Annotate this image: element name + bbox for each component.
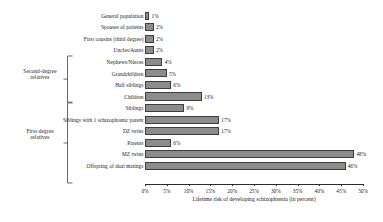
category-label: Children	[124, 93, 143, 99]
x-axis-tick-label: 0%	[141, 188, 148, 194]
x-axis-tick	[298, 184, 299, 186]
bar-value-label: 5%	[169, 71, 176, 77]
bar-row: Siblings9%	[0, 102, 383, 114]
x-axis-tick-label: 50%	[358, 188, 368, 194]
bar-track: 46%	[145, 160, 363, 172]
bar-row: Grandchildren5%	[0, 68, 383, 80]
x-axis-tick	[276, 184, 277, 186]
bar-track: 1%	[145, 10, 363, 22]
bar	[145, 12, 149, 20]
bar-row: Children13%	[0, 91, 383, 103]
category-label: First cousins (third degree)	[84, 36, 144, 42]
bar-track: 5%	[145, 68, 363, 80]
bar-track: 17%	[145, 114, 363, 126]
bar-value-label: 2%	[156, 36, 163, 42]
category-label: MZ twins	[122, 151, 144, 157]
category-label: Uncles/Aunts	[114, 47, 144, 53]
category-label: Spouses of patients	[101, 24, 144, 30]
bar	[145, 116, 219, 124]
bar-row: Spouses of patients2%	[0, 22, 383, 34]
category-label: Parents	[127, 140, 143, 146]
bar-row: MZ twins48%	[0, 149, 383, 161]
bar-row: General population1%	[0, 10, 383, 22]
bar-row: Siblings with 1 schizophrenic parent17%	[0, 114, 383, 126]
bar-track: 2%	[145, 22, 363, 34]
category-label: DZ twins	[123, 128, 144, 134]
bar-value-label: 4%	[165, 59, 172, 65]
x-axis-tick-label: 35%	[293, 188, 303, 194]
x-axis-tick-label: 45%	[336, 188, 346, 194]
category-label: Siblings with 1 schizophrenic parent	[63, 117, 144, 123]
x-axis-title: Lifetime risk of developing schizophreni…	[145, 196, 363, 203]
bar-value-label: 17%	[221, 128, 231, 134]
bar-value-label: 9%	[186, 105, 193, 111]
category-label: General population	[101, 13, 143, 19]
category-label: Half siblings	[115, 82, 143, 88]
bar	[145, 46, 154, 54]
bar-track: 2%	[145, 33, 363, 45]
bar	[145, 139, 171, 147]
bar-row: Nephews/Nieces4%	[0, 56, 383, 68]
bar-value-label: 46%	[348, 163, 358, 169]
schizophrenia-risk-bar-chart: Second-degree relatives First-degree rel…	[0, 0, 383, 222]
bar-track: 9%	[145, 102, 363, 114]
x-axis-tick-label: 40%	[315, 188, 325, 194]
bar	[145, 81, 171, 89]
bar-track: 48%	[145, 149, 363, 161]
x-axis-tick-label: 10%	[184, 188, 194, 194]
category-label: Nephews/Nieces	[107, 59, 144, 65]
bar-value-label: 1%	[152, 13, 159, 19]
x-axis-tick	[319, 184, 320, 186]
bar	[145, 104, 184, 112]
bar-row: First cousins (third degree)2%	[0, 33, 383, 45]
bar-value-label: 2%	[156, 47, 163, 53]
bar-row: Uncles/Aunts2%	[0, 45, 383, 57]
bar-track: 17%	[145, 125, 363, 137]
bar-row: Half siblings6%	[0, 79, 383, 91]
x-axis-tick-label: 30%	[271, 188, 281, 194]
x-axis-tick	[145, 184, 146, 186]
x-axis-tick-label: 5%	[163, 188, 170, 194]
bar-row: Parents6%	[0, 137, 383, 149]
bar	[145, 127, 219, 135]
bar	[145, 35, 154, 43]
category-label: Siblings	[125, 105, 143, 111]
bar	[145, 58, 162, 66]
x-axis-tick-label: 20%	[227, 188, 237, 194]
bar-value-label: 17%	[221, 117, 231, 123]
x-axis-tick	[167, 184, 168, 186]
x-axis-tick-label: 15%	[206, 188, 216, 194]
x-axis-tick	[232, 184, 233, 186]
bar-track: 6%	[145, 137, 363, 149]
bar	[145, 150, 354, 158]
x-axis-tick	[363, 184, 364, 186]
bar-row: DZ twins17%	[0, 125, 383, 137]
bar-rows: General population1%Spouses of patients2…	[0, 10, 383, 172]
x-axis-tick	[254, 184, 255, 186]
category-label: Offspring of dual matings	[87, 163, 144, 169]
bar	[145, 69, 167, 77]
x-axis-tick	[210, 184, 211, 186]
x-axis-tick-label: 25%	[249, 188, 259, 194]
bar-value-label: 13%	[204, 94, 214, 100]
bar	[145, 92, 202, 100]
bar	[145, 162, 346, 170]
bar-track: 2%	[145, 45, 363, 57]
bar-track: 4%	[145, 56, 363, 68]
bar-value-label: 6%	[173, 140, 180, 146]
x-axis-tick	[189, 184, 190, 186]
bar	[145, 23, 154, 31]
bar-track: 6%	[145, 79, 363, 91]
bar-row: Offspring of dual matings46%	[0, 160, 383, 172]
bar-track: 13%	[145, 91, 363, 103]
category-label: Grandchildren	[112, 70, 144, 76]
bar-value-label: 6%	[173, 82, 180, 88]
bar-value-label: 2%	[156, 24, 163, 30]
bar-value-label: 48%	[356, 151, 366, 157]
x-axis-tick	[341, 184, 342, 186]
